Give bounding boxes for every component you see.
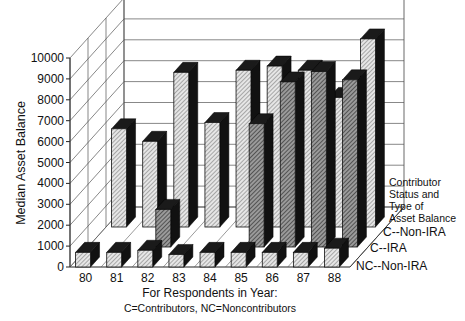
y-axis-title: Median Asset Balance — [14, 101, 28, 225]
legend-title: Type of — [389, 200, 424, 212]
bar-front — [262, 252, 277, 267]
bar-side — [295, 72, 304, 247]
x-tick-label: 86 — [266, 271, 280, 285]
y-tick-label: 6000 — [37, 135, 64, 149]
x-tick-label: 82 — [141, 271, 155, 285]
bar — [342, 70, 366, 247]
y-tick-label: 9000 — [37, 72, 64, 86]
bar-side — [264, 114, 273, 247]
bar-front — [311, 71, 326, 247]
x-tick-label: 81 — [110, 271, 124, 285]
bar-front — [112, 129, 127, 227]
y-tick-label: 8000 — [37, 93, 64, 107]
bar — [156, 199, 180, 247]
bar — [107, 242, 131, 267]
bar — [205, 113, 229, 228]
bar — [249, 114, 273, 247]
bar — [76, 242, 100, 267]
bar-front — [236, 70, 251, 227]
bar — [138, 240, 162, 267]
y-tick-label: 3000 — [37, 197, 64, 211]
x-tick-label: 85 — [234, 271, 248, 285]
x-tick-label: 80 — [79, 271, 93, 285]
x-tick-label: 83 — [172, 271, 186, 285]
y-tick-label: 10000 — [31, 51, 65, 65]
bar-side — [357, 70, 366, 247]
bar-side — [189, 62, 198, 227]
bar — [311, 61, 335, 247]
bar-front — [342, 80, 357, 247]
y-tick-label: 7000 — [37, 114, 64, 128]
bar-front — [138, 250, 153, 267]
bar-front — [231, 252, 246, 267]
bar — [231, 242, 255, 267]
x-axis-title: For Respondents in Year: — [142, 286, 277, 300]
bar-chart-3d: 0100020003000400050006000700080009000100… — [0, 0, 465, 321]
bar-front — [324, 248, 339, 267]
bar-front — [249, 124, 264, 247]
y-tick-label: 0 — [57, 260, 64, 274]
bar — [200, 242, 224, 267]
bar-side — [220, 113, 229, 228]
x-tick-label: 84 — [203, 271, 217, 285]
x-tick-label: 88 — [328, 271, 342, 285]
bar — [293, 242, 317, 267]
bar — [262, 242, 286, 267]
y-tick-label: 2000 — [37, 218, 64, 232]
bar-front — [169, 254, 184, 267]
y-tick-label: 5000 — [37, 156, 64, 170]
legend-title: Contributor — [389, 176, 441, 188]
chart-labels: 0100020003000400050006000700080009000100… — [14, 51, 456, 314]
series-label: NC--Non-IRA — [356, 259, 427, 273]
bar — [112, 119, 136, 227]
bar — [169, 244, 193, 267]
bar-front — [107, 252, 122, 267]
bar-front — [200, 252, 215, 267]
legend-title: Status and — [389, 188, 439, 200]
x-axis-subtitle: C=Contributors, NC=Noncontributors — [124, 302, 296, 314]
bar-side — [375, 29, 384, 227]
bar-front — [293, 252, 308, 267]
legend-title: Asset Balance — [389, 212, 456, 224]
bar-side — [326, 61, 335, 247]
bar-front — [143, 141, 158, 227]
bar-front — [280, 82, 295, 247]
series-label: C--Non-IRA — [383, 225, 446, 239]
bar-side — [127, 119, 136, 227]
chart-bars — [76, 29, 385, 267]
bar-front — [205, 123, 220, 228]
bar — [280, 72, 304, 247]
y-tick-label: 1000 — [37, 239, 64, 253]
y-tick-label: 4000 — [37, 176, 64, 190]
series-label: C--IRA — [370, 241, 407, 255]
x-tick-label: 87 — [297, 271, 311, 285]
bar-front — [76, 252, 91, 267]
